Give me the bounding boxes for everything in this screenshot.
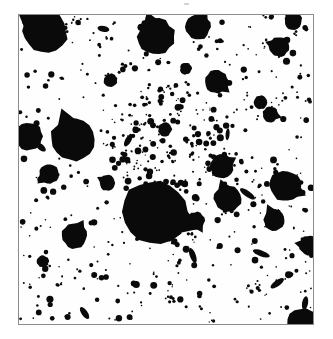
faint-star [123,177,125,179]
faint-star [150,154,156,160]
faint-star [295,34,297,36]
faint-star [172,284,174,286]
faint-star [109,156,116,163]
faint-star [34,198,38,202]
faint-star [111,244,113,246]
faint-star [288,149,290,151]
faint-star [86,73,89,76]
faint-star [296,91,298,93]
faint-star [253,179,255,181]
faint-star [230,264,232,266]
faint-star [167,281,171,285]
faint-star [160,160,163,163]
faint-star [191,232,193,234]
faint-star [172,286,173,287]
faint-star [74,16,76,18]
faint-star [218,38,223,43]
faint-star [252,257,259,264]
faint-star [128,103,132,107]
faint-star [223,122,229,128]
faint-star [147,87,149,89]
faint-star [195,131,201,137]
faint-star [132,65,138,71]
faint-star [260,318,262,320]
faint-star [304,27,308,31]
faint-star [169,152,171,154]
faint-star [174,160,176,162]
faint-star [244,170,248,174]
faint-star [295,30,298,33]
faint-star [143,167,147,171]
faint-star [233,111,235,113]
faint-star [20,226,22,228]
faint-star [69,164,72,167]
faint-star [245,108,247,110]
faint-star [66,30,69,33]
faint-star [167,296,169,298]
faint-star [115,299,120,304]
faint-star [92,32,94,34]
faint-star [212,264,214,266]
faint-star [270,156,277,163]
faint-star [228,235,230,237]
faint-star [120,151,124,155]
faint-star [275,170,278,173]
faint-star [160,58,162,60]
faint-star [290,50,297,57]
faint-star [142,151,144,153]
faint-star [89,263,93,267]
faint-star [246,94,248,96]
faint-star [268,312,271,315]
faint-star [206,102,208,104]
faint-star [112,136,116,140]
faint-star [266,293,268,295]
faint-star [36,304,39,307]
faint-star [304,290,307,293]
faint-star [134,120,139,125]
faint-star [177,296,183,302]
faint-star [121,231,123,233]
faint-star [159,102,163,106]
faint-star [100,129,103,132]
faint-star [80,18,82,20]
faint-star [300,172,302,174]
faint-star [233,164,236,167]
faint-star [305,100,307,102]
faint-star [210,140,216,146]
faint-star [172,254,174,256]
faint-star [61,184,66,189]
faint-star [168,157,171,160]
faint-star [242,44,244,46]
faint-star [107,253,110,256]
faint-star [196,139,203,146]
faint-star [197,183,200,186]
faint-star [302,208,306,212]
faint-star [236,183,239,186]
faint-star [143,147,149,153]
faint-star [271,102,273,104]
faint-star [208,154,212,158]
faint-star [114,104,117,107]
faint-star [69,174,73,178]
faint-star [121,113,123,115]
figure-root [0,0,333,339]
faint-star [211,319,213,321]
faint-star [121,119,124,122]
faint-star [291,85,294,88]
faint-star [254,170,257,173]
faint-star [163,91,165,93]
faint-star [217,127,223,133]
faint-star [202,109,204,111]
faint-star [27,85,30,88]
faint-star [290,206,292,208]
faint-star [77,171,80,174]
faint-star [169,295,173,299]
faint-star [105,145,107,147]
faint-star [63,217,67,221]
faint-star [242,78,244,80]
faint-star [280,306,282,308]
faint-star [74,277,77,280]
faint-star [50,188,56,194]
faint-star [275,76,277,78]
faint-star [136,160,138,162]
